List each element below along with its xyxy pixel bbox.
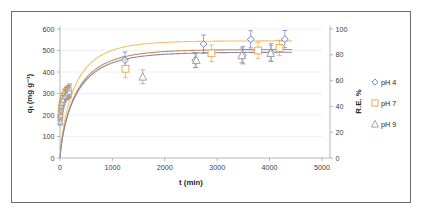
y2-tick-label: 0 (336, 154, 340, 163)
y2-axis-title: R.E. % (354, 89, 363, 113)
y-axis-title: qₜ (mg g⁻¹) (25, 73, 34, 113)
x-tick-label: 4000 (262, 163, 278, 172)
datapoint-ph-4 (247, 36, 254, 43)
datapoint-ph-4 (122, 57, 129, 64)
legend-marker-ph-4 (372, 79, 378, 85)
y-tick-label: 0 (51, 154, 55, 163)
y-tick-label: 300 (43, 89, 55, 98)
y2-tick-label: 80 (336, 50, 344, 59)
datapoint-ph-4 (281, 36, 288, 43)
datapoint-ph-7 (122, 65, 129, 72)
adsorption-kinetics-chart: 0100200300400500600010002000300040005000… (12, 12, 412, 204)
x-tick-label: 0 (58, 163, 62, 172)
y2-tick-label: 100 (336, 25, 348, 34)
datapoint-ph-7 (208, 50, 215, 57)
y-tick-label: 100 (43, 132, 55, 141)
chart-area: 0100200300400500600010002000300040005000… (12, 12, 412, 204)
legend-marker-ph-7 (372, 100, 378, 106)
legend-label-ph-9[interactable]: pH 9 (381, 120, 396, 129)
x-tick-label: 5000 (314, 163, 330, 172)
datapoint-ph-7 (255, 47, 262, 54)
fit-curve-ph-9-fit (60, 50, 292, 159)
y-tick-label: 600 (43, 25, 55, 34)
datapoint-ph-7 (276, 45, 283, 52)
x-axis-title: t (min) (179, 178, 203, 187)
y2-tick-label: 40 (336, 102, 344, 111)
legend-marker-ph-9 (372, 120, 379, 127)
legend-label-ph-7[interactable]: pH 7 (381, 99, 396, 108)
y-tick-label: 200 (43, 111, 55, 120)
x-tick-label: 1000 (104, 163, 120, 172)
y-tick-label: 500 (43, 46, 55, 55)
y-tick-label: 400 (43, 68, 55, 77)
legend-label-ph-4[interactable]: pH 4 (381, 78, 396, 87)
figure-border: 0100200300400500600010002000300040005000… (11, 11, 411, 203)
y2-tick-label: 60 (336, 76, 344, 85)
fit-curve-ph-4-fit (60, 52, 292, 158)
y2-tick-label: 20 (336, 128, 344, 137)
x-tick-label: 3000 (209, 163, 225, 172)
datapoint-ph-9 (139, 73, 147, 80)
x-tick-label: 2000 (157, 163, 173, 172)
